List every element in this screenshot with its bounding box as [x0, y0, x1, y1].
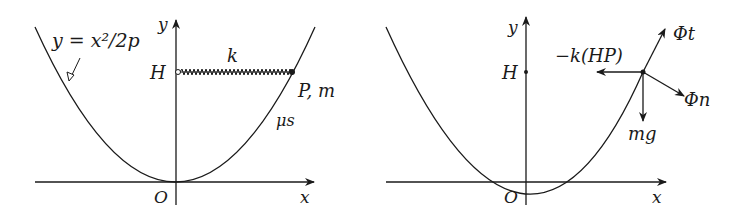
diagram-canvas: y = x²/2p y H k P, m μs O x y H Φt −k(HP… — [0, 0, 748, 212]
force-normal-arrow — [643, 72, 684, 96]
right-x-label: x — [652, 187, 662, 207]
left-curve-equation: y = x²/2p — [51, 29, 140, 51]
left-origin-label: O — [154, 187, 168, 207]
left-spring-k-label: k — [227, 45, 238, 66]
right-H-point — [524, 70, 528, 74]
left-H-label: H — [149, 62, 166, 83]
right-y-label: y — [507, 17, 518, 37]
left-y-label: y — [157, 14, 168, 34]
particle-P — [289, 69, 295, 75]
force-spring-label: −k(HP) — [555, 45, 623, 66]
left-particle-label: P, m — [297, 80, 335, 101]
force-normal-label: Φn — [684, 89, 710, 110]
hinge-H — [176, 70, 181, 75]
right-origin-label: O — [504, 187, 518, 207]
force-gravity-label: mg — [628, 123, 657, 144]
right-panel: y H Φt −k(HP) Φn mg O x — [386, 17, 710, 207]
left-x-label: x — [300, 187, 310, 207]
spring-coil — [180, 69, 294, 75]
force-tangential-arrow — [643, 29, 665, 72]
left-panel: y = x²/2p y H k P, m μs O x — [35, 14, 335, 207]
force-tangential-label: Φt — [673, 23, 696, 44]
left-friction-label: μs — [276, 111, 295, 130]
right-H-label: H — [501, 62, 518, 83]
